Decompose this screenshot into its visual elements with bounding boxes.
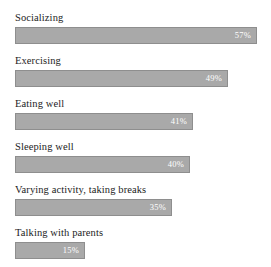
bar-fill[interactable]: 41% [15, 113, 193, 130]
bar-value-label: 57% [235, 31, 256, 40]
bar-value-label: 35% [150, 203, 171, 212]
bar-track: 35% [15, 199, 271, 216]
spacer [0, 216, 271, 223]
spacer [0, 44, 271, 51]
bar-track: 40% [15, 156, 271, 173]
bar-category-label: Sleeping well [15, 140, 271, 153]
bar-category-label: Talking with parents [15, 226, 271, 239]
bar-fill[interactable]: 57% [15, 27, 257, 44]
bar-group: Sleeping well 40% [15, 137, 271, 173]
bar-group: Varying activity, taking breaks 35% [15, 180, 271, 216]
bar-track: 57% [15, 27, 271, 44]
bar-category-label: Varying activity, taking breaks [15, 183, 271, 196]
bar-group: Eating well 41% [15, 94, 271, 130]
bar-fill[interactable]: 35% [15, 199, 172, 216]
bar-track: 49% [15, 70, 271, 87]
spacer [0, 173, 271, 180]
spacer [0, 130, 271, 137]
bar-group: Talking with parents 15% [15, 223, 271, 259]
bar-value-label: 41% [171, 117, 192, 126]
spacer [0, 87, 271, 94]
bar-track: 41% [15, 113, 271, 130]
bar-fill[interactable]: 40% [15, 156, 190, 173]
bar-category-label: Socializing [15, 11, 271, 24]
bar-group: Socializing 57% [15, 8, 271, 44]
bar-value-label: 40% [168, 160, 189, 169]
horizontal-bar-chart: Socializing 57% Exercising 49% Eating we… [0, 0, 271, 267]
bar-fill[interactable]: 49% [15, 70, 228, 87]
bar-category-label: Eating well [15, 97, 271, 110]
bar-group: Exercising 49% [15, 51, 271, 87]
bar-fill[interactable]: 15% [15, 242, 85, 259]
bar-value-label: 49% [206, 74, 227, 83]
bar-value-label: 15% [63, 246, 84, 255]
bar-track: 15% [15, 242, 271, 259]
bar-category-label: Exercising [15, 54, 271, 67]
